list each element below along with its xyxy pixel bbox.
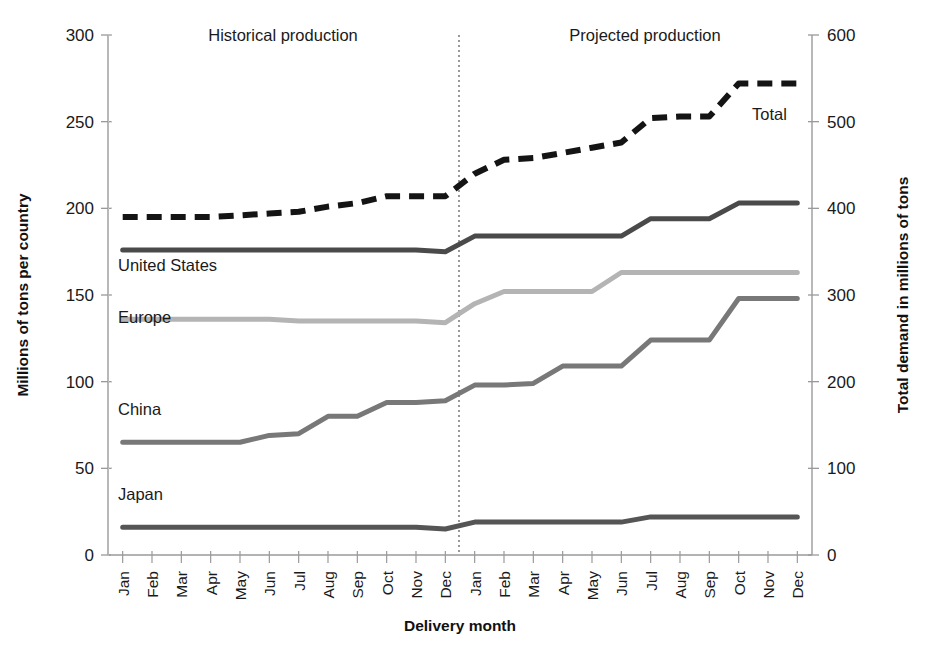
x-tick-label: May: [584, 571, 601, 601]
x-tick-label: Apr: [555, 571, 572, 595]
series-label-total: Total: [752, 105, 787, 123]
y2-tick-label: 600: [827, 26, 855, 45]
y-tick-label: 300: [66, 26, 94, 45]
x-tick-label: Dec: [437, 571, 454, 599]
x-tick-label: Mar: [525, 571, 542, 598]
x-tick-label: Apr: [203, 571, 220, 595]
series-label-japan: Japan: [118, 485, 163, 503]
y-tick-label: 250: [66, 113, 94, 132]
y-tick-label: 0: [85, 546, 94, 565]
y2-tick-label: 300: [827, 286, 855, 305]
y2-tick-label: 400: [827, 199, 855, 218]
x-tick-label: Jan: [115, 571, 132, 596]
x-tick-label: Oct: [379, 570, 396, 595]
x-tick-label: Jul: [291, 571, 308, 591]
x-tick-label: Jan: [467, 571, 484, 596]
chart-background: [0, 0, 932, 654]
y-tick-label: 200: [66, 199, 94, 218]
x-tick-label: Nov: [760, 571, 777, 599]
y2-tick-label: 500: [827, 113, 855, 132]
x-tick-label: Feb: [144, 571, 161, 598]
y2-tick-label: 200: [827, 373, 855, 392]
projected-production-label: Projected production: [569, 26, 720, 44]
x-tick-label: Oct: [731, 570, 748, 595]
y-axis-title: Millions of tons per country: [14, 193, 31, 397]
y-tick-label: 50: [75, 459, 94, 478]
series-label-china: China: [118, 400, 162, 418]
chart-page: 050100150200250300 0100200300400500600 J…: [0, 0, 932, 654]
x-tick-label: May: [232, 571, 249, 601]
x-tick-label: Jun: [261, 571, 278, 596]
x-tick-label: Sep: [349, 571, 366, 599]
x-tick-label: Jun: [613, 571, 630, 596]
production-demand-line-chart: 050100150200250300 0100200300400500600 J…: [0, 0, 932, 654]
x-tick-label: Nov: [408, 571, 425, 599]
x-tick-label: Sep: [701, 571, 718, 599]
historical-production-label: Historical production: [208, 26, 357, 44]
y2-tick-label: 100: [827, 459, 855, 478]
x-tick-label: Dec: [789, 571, 806, 599]
y-tick-label: 150: [66, 286, 94, 305]
series-label-europe: Europe: [118, 308, 171, 326]
x-tick-label: Feb: [496, 571, 513, 598]
series-label-united-states: United States: [118, 256, 217, 274]
x-tick-label: Jul: [643, 571, 660, 591]
y-tick-label: 100: [66, 373, 94, 392]
y2-axis-title: Total demand in millions of tons: [894, 177, 911, 414]
x-tick-label: Aug: [672, 571, 689, 599]
y2-tick-label: 0: [827, 546, 836, 565]
x-tick-label: Mar: [173, 571, 190, 598]
x-axis-title: Delivery month: [404, 617, 516, 634]
x-tick-label: Aug: [320, 571, 337, 599]
